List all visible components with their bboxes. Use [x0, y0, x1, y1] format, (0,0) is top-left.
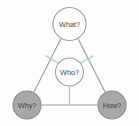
- diagram-canvas: What? Who? Why? How?: [0, 0, 139, 126]
- node-why[interactable]: Why?: [13, 91, 41, 119]
- node-what[interactable]: What?: [53, 8, 86, 41]
- node-how[interactable]: How?: [98, 91, 126, 119]
- node-why-label: Why?: [18, 101, 37, 110]
- node-who-label: Who?: [60, 68, 79, 77]
- triangle-framework-diagram: What? Who? Why? How?: [0, 0, 139, 126]
- node-who[interactable]: Who?: [56, 58, 84, 86]
- node-how-label: How?: [103, 101, 122, 110]
- node-what-label: What?: [59, 20, 80, 29]
